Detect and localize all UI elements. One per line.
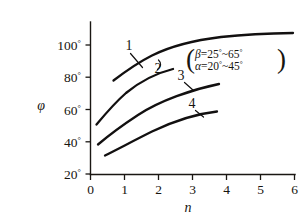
chart-svg: 100° 80° 60° 40° 20° 0 1 2 3 4 5 6 n: [0, 0, 307, 222]
y-axis-title: φ: [37, 98, 45, 113]
x-axis-title: n: [185, 200, 192, 215]
annotation-line-2: α=20°~45°: [195, 60, 243, 73]
annotation-open-paren: (: [186, 44, 195, 74]
curve-label-4: 4: [189, 96, 196, 111]
x-axis-ticks: [91, 175, 295, 181]
chart-figure: 100° 80° 60° 40° 20° 0 1 2 3 4 5 6 n: [0, 0, 307, 222]
x-tick-label-6: 6: [291, 182, 298, 197]
x-tick-label-5: 5: [257, 182, 264, 197]
y-tick-label-80: 80°: [64, 70, 81, 85]
x-tick-label-4: 4: [223, 182, 230, 197]
curve-label-1: 1: [126, 38, 133, 53]
y-tick-label-60: 60°: [64, 103, 81, 118]
y-axis-tick-labels: 100° 80° 60° 40° 20°: [57, 38, 81, 182]
y-tick-label-20: 20°: [64, 167, 81, 182]
curve-leader-3: [185, 83, 194, 91]
y-axis-ticks: [86, 45, 91, 174]
x-tick-label-3: 3: [189, 182, 196, 197]
x-tick-label-2: 2: [155, 182, 162, 197]
curve-label-2-group: 2: [155, 60, 162, 76]
y-tick-label-100: 100°: [57, 38, 81, 53]
x-tick-label-1: 1: [121, 182, 128, 197]
curve-4: [105, 112, 217, 156]
y-tick-label-40: 40°: [64, 135, 81, 150]
curve-label-3: 3: [178, 68, 185, 83]
annotation-close-paren: ): [277, 44, 286, 74]
x-tick-label-0: 0: [87, 182, 94, 197]
x-axis-tick-labels: 0 1 2 3 4 5 6: [87, 182, 298, 197]
annotation-group: ( β=25°~65° α=20°~45° ): [186, 44, 286, 74]
